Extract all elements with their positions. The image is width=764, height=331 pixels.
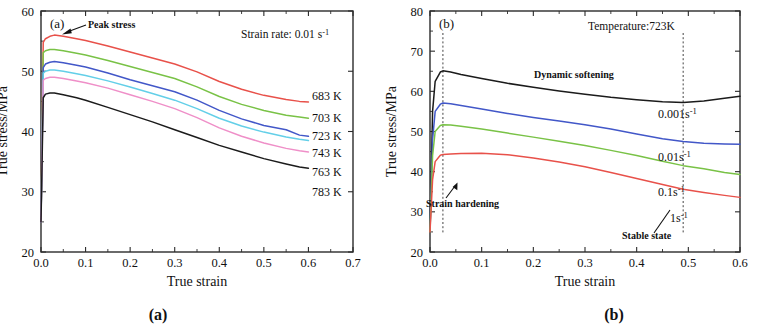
x-tick-label: 0.7: [345, 256, 361, 270]
panel-label: (b): [439, 16, 454, 31]
x-tick-label: 0.4: [211, 256, 227, 270]
x-axis-title: True strain: [555, 274, 616, 289]
series-label-4: 763 K: [312, 165, 342, 179]
strain-hardening-note: Strain hardening: [426, 198, 499, 209]
series-label-2: 0.1s-1: [658, 184, 685, 199]
stable-state-note: Stable state: [622, 230, 672, 241]
chart-b-svg: 0.00.10.20.30.40.50.620304050607080True …: [382, 0, 764, 300]
figure-caption-b: (b): [574, 299, 654, 331]
condition-note: Temperature:723K: [588, 20, 675, 33]
chart-panel-b: 0.00.10.20.30.40.50.620304050607080True …: [382, 0, 764, 300]
x-tick-label: 0.4: [629, 256, 645, 270]
y-tick-label: 40: [411, 165, 424, 179]
strain-hardening-arrow: [446, 186, 455, 198]
series-label-3: 1s-1: [670, 210, 688, 225]
x-tick-label: 0.2: [122, 256, 138, 270]
series-curve-1: [41, 50, 308, 222]
y-axis-title: True stress/MPa: [0, 85, 10, 177]
chart-panel-a: 0.00.10.20.30.40.50.60.72030405060True s…: [0, 0, 382, 300]
x-tick-label: 0.0: [33, 256, 49, 270]
series-label-1: 703 K: [312, 111, 342, 125]
x-tick-label: 0.0: [422, 256, 438, 270]
series-curve-5: [41, 93, 308, 222]
x-tick-label: 0.3: [167, 256, 183, 270]
series-label-1: 0.01s-1: [658, 149, 691, 164]
y-axis-title: True stress/MPa: [384, 85, 399, 177]
y-tick-label: 50: [22, 65, 35, 79]
dynamic-softening-note: Dynamic softening: [534, 69, 614, 80]
plot-frame: [41, 11, 353, 252]
x-tick-label: 0.3: [577, 256, 593, 270]
x-tick-label: 0.6: [732, 256, 748, 270]
series-curve-2: [41, 62, 308, 222]
series-curve-2: [430, 125, 740, 232]
y-tick-label: 50: [411, 125, 424, 139]
x-tick-label: 0.6: [301, 256, 317, 270]
x-tick-label: 0.1: [78, 256, 94, 270]
panel-label: (a): [50, 16, 64, 31]
y-tick-label: 80: [411, 5, 424, 19]
series-label-5: 783 K: [312, 185, 342, 199]
x-tick-label: 0.2: [526, 256, 542, 270]
series-label-2: 723 K: [312, 129, 342, 143]
y-tick-label: 20: [411, 246, 424, 260]
series-label-3: 743 K: [312, 146, 342, 160]
condition-note: Strain rate: 0.01 s-1: [241, 28, 329, 40]
chart-a-svg: 0.00.10.20.30.40.50.60.72030405060True s…: [0, 0, 382, 300]
series-curve-3: [430, 153, 740, 232]
figure-container: 0.00.10.20.30.40.50.60.72030405060True s…: [0, 0, 764, 331]
y-tick-label: 30: [411, 205, 424, 219]
x-axis-title: True strain: [167, 274, 228, 289]
y-tick-label: 70: [411, 45, 424, 59]
y-tick-label: 60: [22, 5, 35, 19]
y-tick-label: 40: [22, 125, 35, 139]
x-tick-label: 0.5: [681, 256, 697, 270]
peak-stress-note: Peak stress: [88, 19, 135, 30]
series-curve-0: [41, 35, 308, 222]
y-tick-label: 30: [22, 185, 35, 199]
figure-caption-a: (a): [118, 299, 198, 331]
plot-frame: [430, 11, 740, 252]
series-curve-3: [41, 70, 308, 222]
y-tick-label: 20: [22, 246, 35, 260]
y-tick-label: 60: [411, 85, 424, 99]
series-label-0: 0.001s-1: [658, 106, 697, 121]
series-label-0: 683 K: [312, 89, 342, 103]
x-tick-label: 0.1: [474, 256, 490, 270]
x-tick-label: 0.5: [256, 256, 272, 270]
